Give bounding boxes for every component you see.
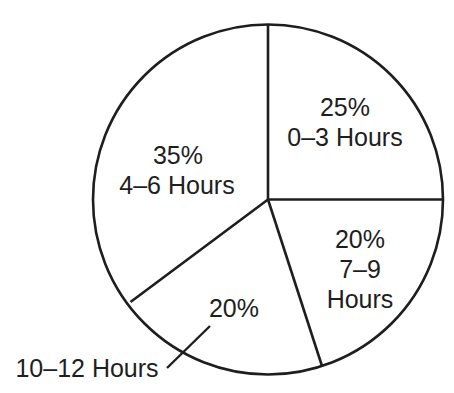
slice-0-3-hours-percent: 25%: [320, 93, 370, 121]
slice-7-9-hours-unit: Hours: [327, 285, 394, 313]
slice-7-9-hours-percent: 20%: [335, 225, 385, 253]
pie-chart-svg: 25% 0–3 Hours 20% 7–9 Hours 20% 10–12 Ho…: [0, 0, 454, 393]
slice-7-9-hours-range: 7–9: [339, 255, 381, 283]
slice-10-12-hours-label: 10–12 Hours: [15, 354, 158, 382]
slice-10-12-hours-percent: 20%: [209, 294, 259, 322]
slice-0-3-hours-label: 0–3 Hours: [287, 123, 402, 151]
slice-4-6-hours-label: 4–6 Hours: [119, 171, 234, 199]
pie-chart: 25% 0–3 Hours 20% 7–9 Hours 20% 10–12 Ho…: [0, 0, 454, 393]
slice-4-6-hours-percent: 35%: [153, 141, 203, 169]
